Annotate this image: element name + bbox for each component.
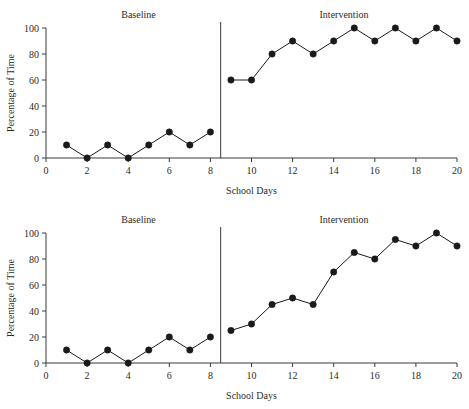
data-point <box>84 155 90 161</box>
data-point <box>413 38 419 44</box>
data-point <box>166 334 172 340</box>
y-tick-label: 0 <box>34 358 39 369</box>
data-point <box>63 142 69 148</box>
data-point <box>372 256 378 262</box>
data-point <box>125 155 131 161</box>
y-axis-title: Percentage of Time <box>5 54 16 132</box>
data-point <box>351 25 357 31</box>
chart-svg-top: 02040608010002468101214161820BaselineInt… <box>0 0 469 204</box>
data-point <box>187 142 193 148</box>
x-tick-label: 20 <box>452 370 462 381</box>
data-point <box>228 327 234 333</box>
series-line-intervention <box>231 28 457 80</box>
x-tick-label: 4 <box>126 165 131 176</box>
x-tick-label: 16 <box>370 165 380 176</box>
data-point <box>454 243 460 249</box>
x-tick-label: 10 <box>247 165 257 176</box>
data-point <box>248 77 254 83</box>
y-tick-label: 80 <box>29 254 39 265</box>
x-axis-title: School Days <box>226 185 277 196</box>
data-point <box>207 334 213 340</box>
data-point <box>207 129 213 135</box>
x-tick-label: 6 <box>167 165 172 176</box>
data-point <box>104 347 110 353</box>
data-point <box>104 142 110 148</box>
chart-panel-top: 02040608010002468101214161820BaselineInt… <box>0 0 469 204</box>
data-point <box>269 51 275 57</box>
x-tick-label: 8 <box>208 370 213 381</box>
x-axis-title: School Days <box>226 390 277 401</box>
data-point <box>413 243 419 249</box>
x-tick-label: 12 <box>288 165 298 176</box>
y-tick-label: 60 <box>29 280 39 291</box>
data-point <box>392 236 398 242</box>
data-point <box>228 77 234 83</box>
y-tick-label: 20 <box>29 127 39 138</box>
data-point <box>310 51 316 57</box>
data-point <box>289 38 295 44</box>
data-point <box>433 230 439 236</box>
data-point <box>187 347 193 353</box>
data-point <box>84 360 90 366</box>
x-tick-label: 0 <box>44 165 49 176</box>
data-point <box>63 347 69 353</box>
y-tick-label: 80 <box>29 49 39 60</box>
x-tick-label: 4 <box>126 370 131 381</box>
data-point <box>146 142 152 148</box>
x-tick-label: 20 <box>452 165 462 176</box>
chart-panel-bottom: 02040608010002468101214161820BaselineInt… <box>0 205 469 409</box>
x-tick-label: 16 <box>370 370 380 381</box>
data-point <box>331 269 337 275</box>
y-tick-label: 100 <box>24 23 39 34</box>
x-tick-label: 8 <box>208 165 213 176</box>
x-tick-label: 18 <box>411 370 421 381</box>
series-line-intervention <box>231 233 457 331</box>
x-tick-label: 0 <box>44 370 49 381</box>
x-tick-label: 10 <box>247 370 257 381</box>
x-tick-label: 14 <box>329 165 339 176</box>
y-tick-label: 0 <box>34 153 39 164</box>
data-point <box>372 38 378 44</box>
phase-label-baseline: Baseline <box>121 214 156 225</box>
y-tick-label: 100 <box>24 228 39 239</box>
data-point <box>125 360 131 366</box>
x-tick-label: 12 <box>288 370 298 381</box>
y-tick-label: 20 <box>29 332 39 343</box>
chart-svg-bottom: 02040608010002468101214161820BaselineInt… <box>0 205 469 409</box>
data-point <box>310 301 316 307</box>
x-tick-label: 2 <box>85 165 90 176</box>
y-tick-label: 40 <box>29 101 39 112</box>
phase-label-intervention: Intervention <box>320 9 369 20</box>
x-tick-label: 18 <box>411 165 421 176</box>
data-point <box>454 38 460 44</box>
phase-label-intervention: Intervention <box>320 214 369 225</box>
data-point <box>433 25 439 31</box>
data-point <box>248 321 254 327</box>
data-point <box>289 295 295 301</box>
phase-label-baseline: Baseline <box>121 9 156 20</box>
x-tick-label: 6 <box>167 370 172 381</box>
y-tick-label: 40 <box>29 306 39 317</box>
data-point <box>392 25 398 31</box>
y-tick-label: 60 <box>29 75 39 86</box>
data-point <box>269 301 275 307</box>
data-point <box>166 129 172 135</box>
data-point <box>331 38 337 44</box>
data-point <box>351 249 357 255</box>
y-axis-title: Percentage of Time <box>5 259 16 337</box>
data-point <box>146 347 152 353</box>
chart-page: 02040608010002468101214161820BaselineInt… <box>0 0 469 409</box>
x-tick-label: 14 <box>329 370 339 381</box>
x-tick-label: 2 <box>85 370 90 381</box>
